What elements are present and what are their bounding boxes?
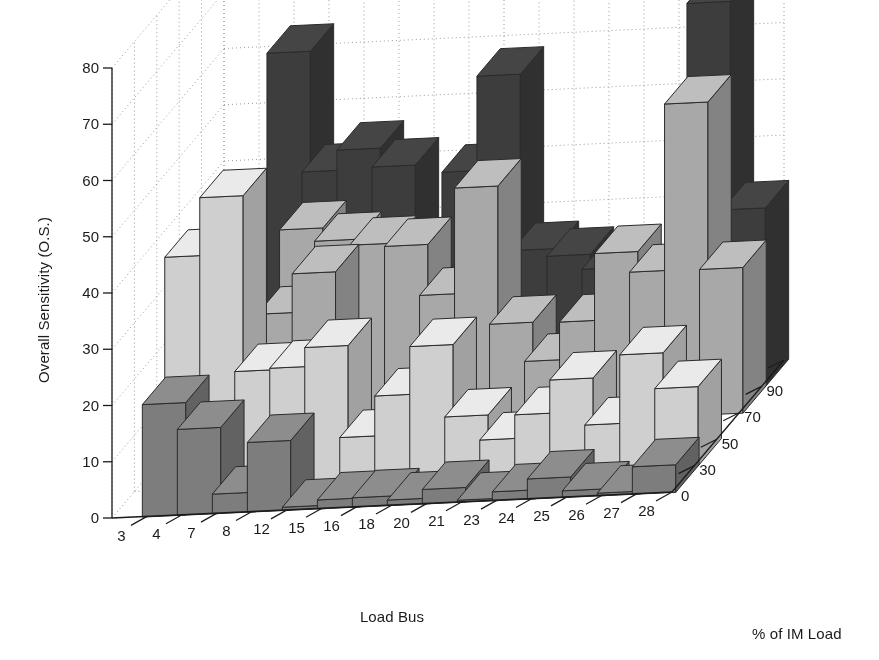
y-axis-title-wrapper: Overall Sensitivity (O.S.) [0,0,40,660]
z-axis-title: % of IM Load [752,625,879,642]
x-axis-title: Load Bus [312,608,472,625]
plot-area-canvas [0,0,879,660]
y-axis-title: Overall Sensitivity (O.S.) [35,150,52,450]
figure-3d-bar-chart: Overall Sensitivity (O.S.) Load Bus % of… [0,0,879,660]
